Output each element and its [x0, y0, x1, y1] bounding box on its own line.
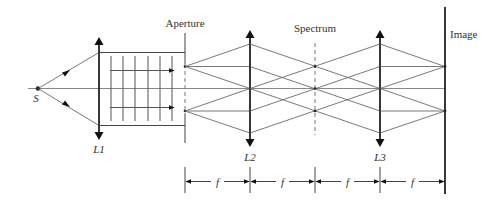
lens-arrow-up-icon: [95, 37, 104, 45]
lens-arrow-down-icon: [246, 139, 255, 147]
ray-arrow-icon: [62, 70, 70, 77]
spectrum-point: [314, 87, 317, 90]
dimension-label: f: [411, 176, 416, 188]
image-label: Image: [450, 28, 478, 40]
dimension-f-2: f: [251, 176, 314, 188]
image-point: [444, 65, 447, 68]
spectrum-label: Spectrum: [294, 22, 337, 34]
dimension-label: f: [346, 176, 351, 188]
lens-arrow-down-icon: [376, 139, 385, 147]
lens-arrow-down-icon: [95, 132, 104, 140]
aperture-label: Aperture: [165, 17, 204, 29]
spectrum-point: [314, 65, 317, 68]
source-label: S: [33, 92, 39, 104]
lens-arrow-up-icon: [376, 30, 385, 38]
dimension-f-3: f: [316, 176, 379, 188]
dimension-f-1: f: [186, 176, 249, 188]
optical-system-diagram: S L1 Aperture: [0, 0, 504, 204]
dimension-label: f: [216, 176, 221, 188]
lens-l2-label: L2: [243, 151, 256, 163]
ray-source-lower: [38, 89, 99, 126]
lens-l1-label: L1: [92, 143, 105, 155]
lens-l3-label: L3: [373, 151, 386, 163]
image-point: [444, 110, 447, 113]
dimension-f-4: f: [381, 176, 444, 188]
spectrum-point: [314, 110, 317, 113]
dimension-label: f: [281, 176, 286, 188]
ray-arrow-icon: [62, 101, 70, 108]
lens-arrow-up-icon: [246, 30, 255, 38]
